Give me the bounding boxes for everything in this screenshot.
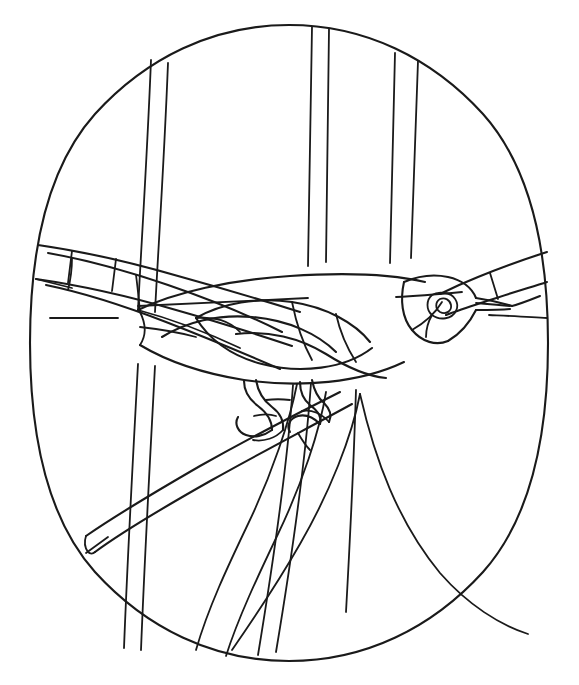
stained-glass-pattern bbox=[0, 0, 579, 685]
background-panel bbox=[0, 0, 579, 685]
claw-bridge-1 bbox=[266, 399, 290, 400]
artwork-canvas bbox=[0, 0, 579, 685]
beak-lower bbox=[476, 309, 510, 310]
